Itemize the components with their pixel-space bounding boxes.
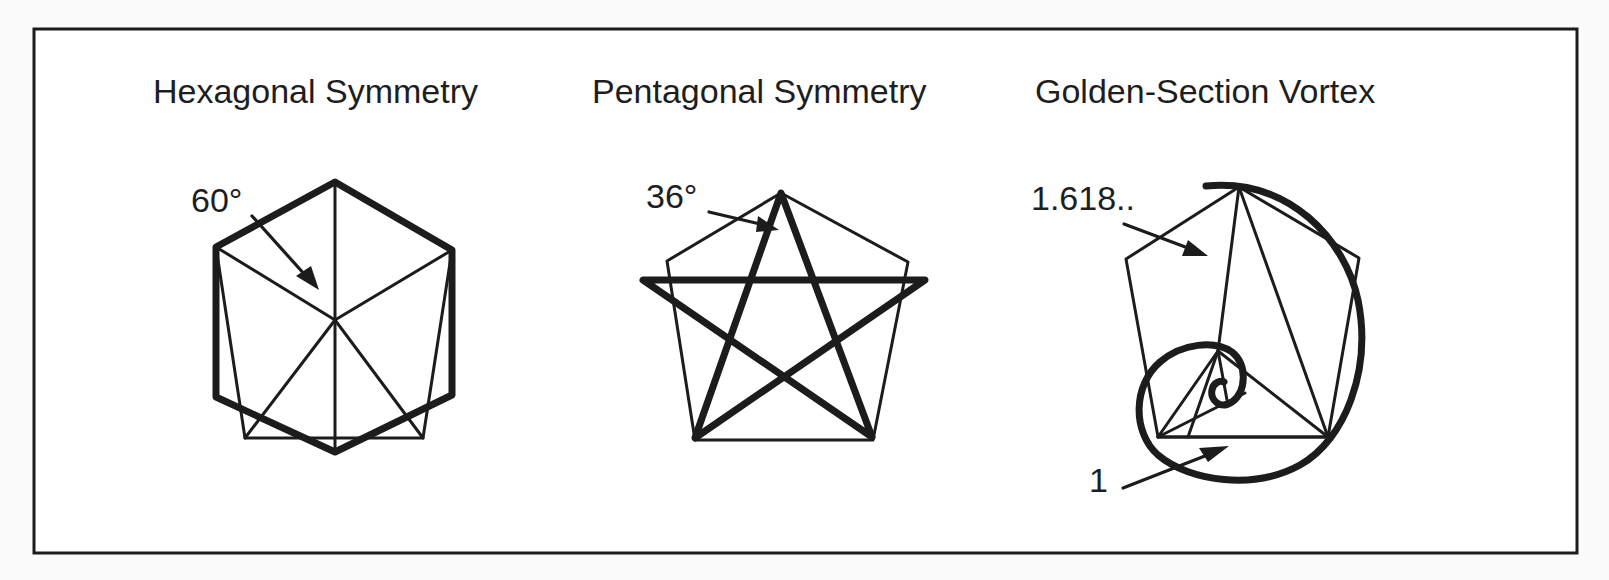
angle-label-36: 36° [646,177,697,215]
panel-title-pentagonal: Pentagonal Symmetry [592,72,927,110]
panel-title-hexagonal: Hexagonal Symmetry [153,72,478,110]
ratio-label-short: 1 [1089,461,1108,499]
panel-title-golden: Golden-Section Vortex [1035,72,1375,110]
ratio-label-long: 1.618.. [1031,179,1135,217]
symmetry-figure: Hexagonal Symmetry 60° Pentagonal Symmet… [0,0,1609,580]
angle-label-60: 60° [191,181,242,219]
